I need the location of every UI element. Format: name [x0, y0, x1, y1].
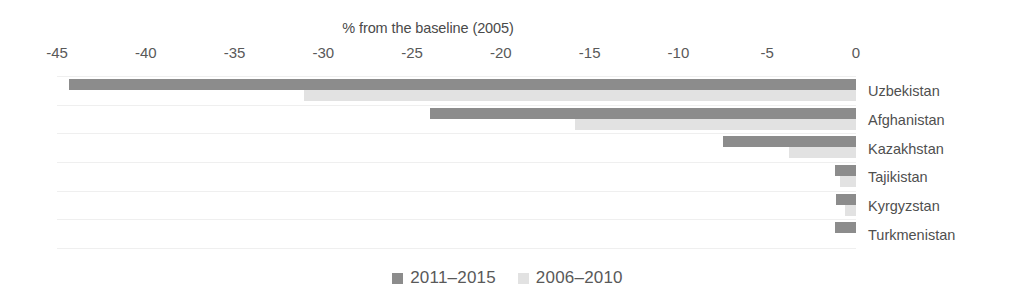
category-label-afghanistan: Afghanistan [868, 113, 945, 128]
category-label-uzbekistan: Uzbekistan [868, 84, 940, 99]
x-tick-label: -5 [761, 44, 774, 61]
x-tick-label: -15 [579, 44, 601, 61]
x-tick-label: 0 [852, 44, 860, 61]
bar-series-a [430, 108, 856, 119]
bar-group [57, 133, 856, 162]
gridline [57, 248, 856, 249]
bar-chart: % from the baseline (2005) -45-40-35-30-… [0, 0, 1015, 304]
bar-series-a [835, 222, 856, 233]
bar-series-b [840, 176, 856, 187]
legend-item[interactable]: 2006–2010 [518, 268, 623, 288]
bar-series-a [69, 79, 856, 90]
bar-series-b [845, 205, 856, 216]
bar-group [57, 191, 856, 220]
x-axis-tick-labels: -45-40-35-30-25-20-15-10-50 [0, 44, 1015, 70]
x-tick-label: -25 [401, 44, 423, 61]
x-tick-label: -30 [312, 44, 334, 61]
bar-series-b [304, 90, 856, 101]
x-tick-label: -10 [668, 44, 690, 61]
chart-title: % from the baseline (2005) [0, 20, 856, 36]
category-label-turkmenistan: Turkmenistan [868, 228, 955, 243]
legend-swatch-icon [392, 273, 403, 284]
bar-series-a [836, 194, 856, 205]
plot-area [57, 76, 856, 248]
bar-group [57, 105, 856, 134]
bar-series-b [575, 119, 856, 130]
legend-swatch-icon [518, 273, 529, 284]
x-tick-label: -35 [224, 44, 246, 61]
bar-group [57, 162, 856, 191]
bar-series-a [835, 165, 856, 176]
x-tick-label: -20 [490, 44, 512, 61]
category-label-kazakhstan: Kazakhstan [868, 142, 944, 157]
bar-group [57, 76, 856, 105]
legend-label: 2011–2015 [410, 268, 496, 288]
category-label-tajikistan: Tajikistan [868, 170, 928, 185]
legend-item[interactable]: 2011–2015 [392, 268, 496, 288]
category-label-kyrgyzstan: Kyrgyzstan [868, 199, 940, 214]
bar-group [57, 219, 856, 248]
x-tick-label: -40 [135, 44, 157, 61]
chart-legend: 2011–20152006–2010 [0, 268, 1015, 288]
bar-series-a [723, 136, 856, 147]
bar-series-b [789, 147, 856, 158]
category-axis-labels: UzbekistanAfghanistanKazakhstanTajikista… [868, 76, 1015, 248]
x-tick-label: -45 [46, 44, 68, 61]
legend-label: 2006–2010 [536, 268, 623, 288]
